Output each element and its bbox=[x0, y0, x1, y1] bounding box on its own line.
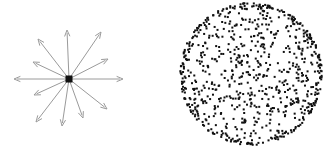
arrow-ray-8 bbox=[34, 79, 69, 95]
origin-marker bbox=[66, 76, 73, 83]
arrow-ray-4 bbox=[65, 30, 70, 79]
figure-canvas bbox=[0, 0, 335, 152]
arrow-ray-6 bbox=[33, 62, 69, 79]
panel-radial-arrows bbox=[0, 0, 168, 152]
arrow-ray-2 bbox=[69, 59, 108, 79]
radial-arrow-diagram bbox=[0, 0, 168, 152]
panel-dot-disk bbox=[167, 0, 335, 152]
dot-cloud bbox=[179, 2, 322, 145]
dot-disk-diagram bbox=[167, 0, 335, 152]
arrow-ray-7 bbox=[14, 77, 69, 82]
arrow-ray-5 bbox=[38, 39, 69, 79]
arrow-ray-10 bbox=[60, 79, 69, 126]
arrow-ray-1 bbox=[69, 77, 123, 82]
arrow-ray-3 bbox=[69, 32, 101, 79]
